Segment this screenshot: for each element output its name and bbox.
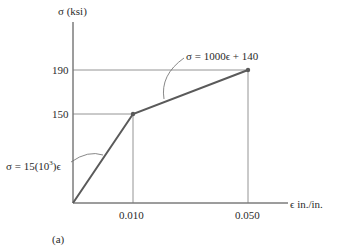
equation-elastic-prefix: σ = 15(10 — [6, 160, 49, 172]
stress-strain-curve — [73, 70, 248, 203]
leader-plastic — [163, 58, 184, 99]
point-ultimate — [246, 68, 250, 72]
equation-elastic: σ = 15(103)ϵ — [6, 157, 61, 172]
equation-elastic-suffix: )ϵ — [53, 160, 61, 172]
y-tick-190: 190 — [52, 64, 69, 76]
y-axis-label: σ (ksi) — [58, 5, 87, 17]
y-tick-150: 150 — [52, 108, 69, 120]
leader-elastic — [71, 154, 103, 162]
point-yield — [131, 112, 135, 116]
figure-caption: (a) — [52, 233, 64, 245]
x-axis-label: ϵ in./in. — [290, 198, 323, 210]
chart-canvas — [0, 0, 340, 250]
equation-plastic: σ = 1000ϵ + 140 — [186, 50, 258, 62]
x-tick-0010: 0.010 — [119, 209, 144, 221]
x-tick-0050: 0.050 — [235, 209, 260, 221]
